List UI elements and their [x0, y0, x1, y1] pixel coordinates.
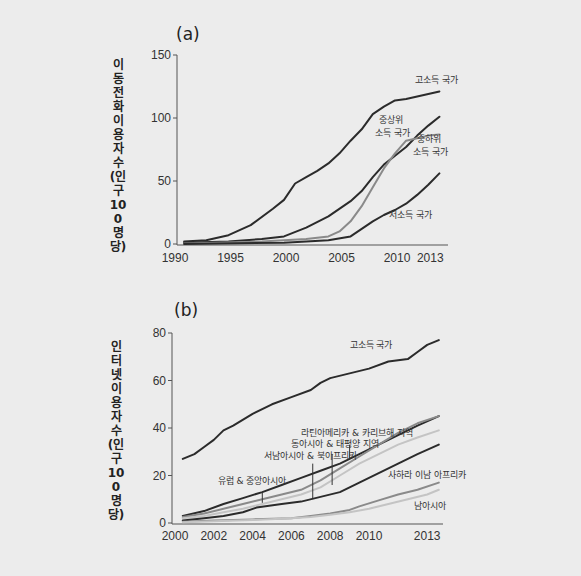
series-annotation: 유럽 & 중앙아시아: [218, 475, 288, 486]
series-annotation: 고소득 국가: [415, 75, 458, 85]
y-tick-label: 20: [153, 469, 167, 483]
series-annotation: 중하위: [417, 134, 441, 144]
y-tick-label: 60: [153, 374, 167, 388]
y-tick-label: 50: [158, 174, 172, 188]
charts-canvas: 050100150199019952000200520102013고소득 국가중…: [0, 0, 581, 576]
series-annotation: 사하라 이남 아프리카: [388, 470, 466, 480]
x-tick-label: 1990: [162, 251, 189, 265]
y-tick-label: 80: [153, 326, 167, 340]
x-tick-label: 2006: [278, 529, 305, 543]
chart-a-mobile-subscribers: 050100150199019952000200520102013고소득 국가중…: [151, 48, 458, 265]
x-tick-label: 2002: [200, 529, 227, 543]
x-tick-label: 2000: [273, 251, 300, 265]
x-tick-label: 2010: [384, 251, 411, 265]
series-annotation: 소득 국가: [375, 128, 410, 138]
y-tick-label: 100: [151, 111, 171, 125]
x-tick-label: 1995: [217, 251, 244, 265]
chart-b-internet-users: 0204060802000200220042006200820102013고소득…: [153, 326, 466, 543]
x-tick-label: 2000: [162, 529, 189, 543]
series-annotation: 동아시아 & 태평양 지역: [291, 439, 379, 449]
y-tick-label: 40: [153, 421, 167, 435]
x-tick-label: 2008: [317, 529, 344, 543]
series-annotation: 저소득 국가: [389, 210, 432, 220]
series-annotation: 라틴아메리카 & 카리브해 지역: [301, 428, 413, 438]
x-tick-label: 2005: [328, 251, 355, 265]
series-annotation: 남아시아: [414, 501, 447, 511]
x-tick-label: 2013: [417, 251, 444, 265]
x-tick-label: 2004: [239, 529, 266, 543]
x-tick-label: 2010: [356, 529, 383, 543]
series-annotation: 서남아시아 & 북아프리카: [264, 451, 357, 461]
series-annotation: 소득 국가: [413, 147, 448, 157]
series-annotation: 중상위: [379, 115, 403, 125]
y-tick-label: 150: [151, 48, 171, 62]
y-tick-label: 0: [164, 237, 171, 251]
y-tick-label: 0: [159, 516, 166, 530]
x-tick-label: 2013: [414, 529, 441, 543]
series-annotation: 고소득 국가: [350, 340, 393, 350]
